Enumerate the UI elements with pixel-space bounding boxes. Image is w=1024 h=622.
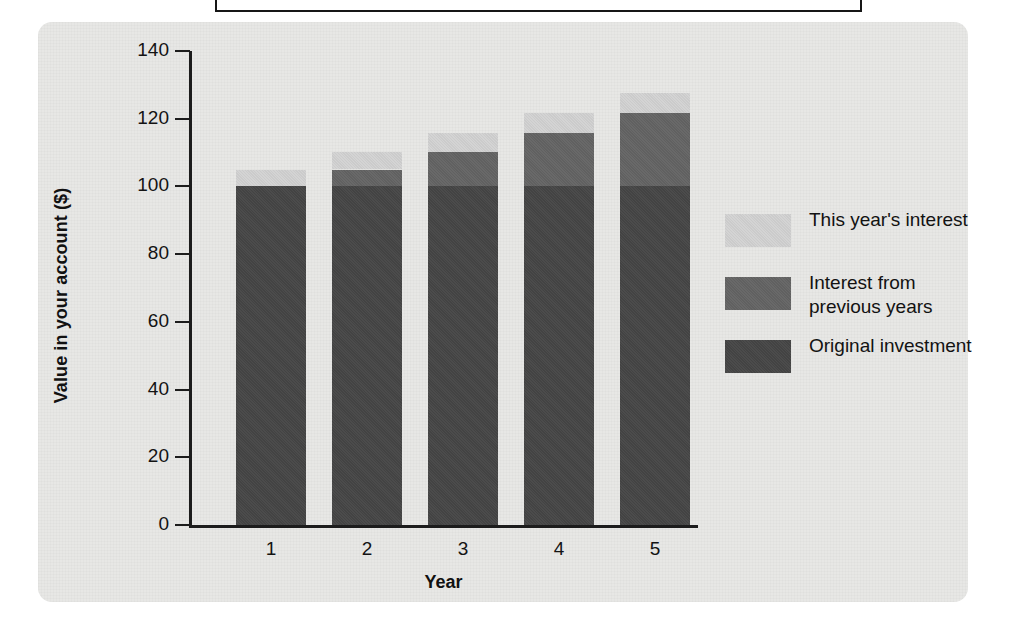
scan-crop-box — [215, 0, 862, 12]
figure-panel — [38, 22, 968, 602]
